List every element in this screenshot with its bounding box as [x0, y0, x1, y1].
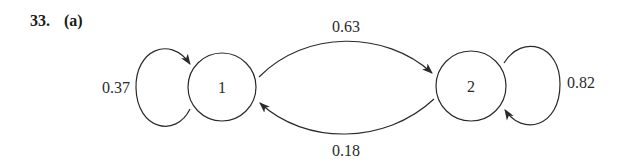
transition-1-to-2: 0.63	[259, 18, 432, 77]
self-loop-arrow-1	[136, 49, 190, 126]
arc-arrow-2-to-1	[260, 99, 434, 134]
transition-label-1-2: 0.63	[332, 18, 360, 35]
transition-2-to-2: 0.82	[504, 46, 595, 124]
transition-label-1-1: 0.37	[102, 79, 130, 96]
transition-2-to-1: 0.18	[260, 99, 434, 159]
state-node-1: 1	[188, 53, 256, 121]
self-loop-arrow-2	[504, 46, 560, 124]
arc-arrow-1-to-2	[259, 41, 432, 77]
transition-1-to-1: 0.37	[102, 49, 190, 126]
transition-label-2-1: 0.18	[332, 142, 360, 159]
state-label-1: 1	[218, 79, 226, 96]
markov-chain-diagram: 1 2 0.37 0.63 0.18 0.82	[0, 0, 632, 162]
state-node-2: 2	[436, 51, 506, 121]
state-label-2: 2	[467, 78, 475, 95]
transition-label-2-2: 0.82	[567, 74, 595, 91]
